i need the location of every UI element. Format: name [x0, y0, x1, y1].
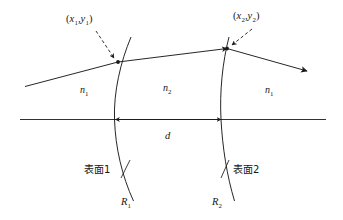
internal-ray [118, 49, 227, 63]
incident-ray [25, 62, 118, 87]
r-sub-2: 2 [218, 202, 221, 209]
leader-line-point-1 [96, 31, 114, 58]
leader-line-point-2 [232, 29, 252, 45]
coordinate-label-point-2: (x2,y2) [233, 11, 259, 24]
n-sub-middle: 2 [168, 88, 171, 95]
refractive-index-label-right: n1 [265, 85, 273, 98]
refractive-index-label-left: n1 [80, 85, 88, 98]
r-sub-1: 1 [127, 202, 130, 209]
paren-close-2: ) [256, 10, 260, 21]
surface-1-label: 表面1 [84, 165, 110, 175]
exit-ray [227, 49, 307, 72]
diagram-canvas [0, 0, 343, 220]
d-symbol: d [165, 130, 170, 141]
intersection-point-1 [116, 60, 120, 64]
surface-2-curve [221, 37, 235, 201]
thickness-label: d [165, 131, 170, 142]
intersection-point-2 [225, 47, 229, 51]
optics-diagram: (x1,y1) (x2,y2) n1 n2 n1 d 表面1 表面2 R1 R2 [0, 0, 343, 220]
coordinate-label-point-1: (x1,y1) [66, 14, 92, 27]
n-sub-left: 1 [85, 90, 88, 97]
radius-label-1: R1 [121, 197, 131, 210]
refractive-index-label-middle: n2 [163, 83, 171, 96]
surface-2-label: 表面2 [233, 165, 259, 175]
paren-close-1: ) [89, 13, 93, 24]
n-sub-right: 1 [270, 90, 273, 97]
radius-label-2: R2 [212, 197, 222, 210]
